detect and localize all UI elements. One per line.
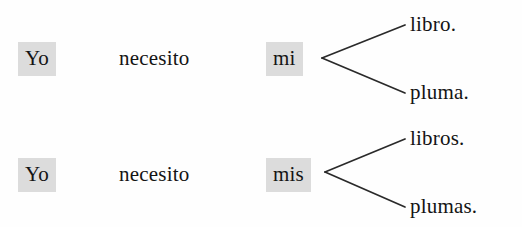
grammar-diagram-figure: Yo necesito mi libro. pluma. Yo necesito… [0, 0, 522, 227]
row2-possessive-word: mis [266, 158, 311, 192]
row2-verb-word: necesito [119, 158, 189, 192]
row2-branch-noun-lower: plumas. [410, 190, 477, 224]
row1-branch-noun-lower: pluma. [410, 76, 469, 110]
row1-possessive-word: mi [266, 42, 303, 76]
row2-branch-upper-line [325, 139, 405, 172]
row1-subject-word: Yo [18, 42, 56, 76]
row2-branch-noun-upper: libros. [410, 122, 465, 156]
row1-branch-upper-line [322, 25, 405, 58]
row1-verb-word: necesito [119, 42, 189, 76]
row1-branch-lower-line [322, 58, 405, 93]
row1-branch-noun-upper: libro. [410, 8, 456, 42]
row2-subject-word: Yo [18, 158, 56, 192]
row2-branch-lower-line [325, 172, 405, 207]
